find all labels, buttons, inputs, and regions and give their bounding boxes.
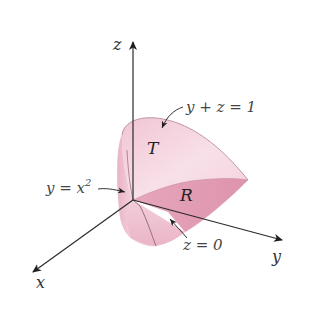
cylinder-equation-base: y = x (45, 179, 86, 197)
plane-equation-label: y + z = 1 (185, 98, 256, 116)
x-axis (33, 200, 133, 272)
cylinder-equation-label: y = x2 (45, 177, 91, 197)
y-axis-label: y (271, 247, 282, 266)
cylinder-equation-exponent: 2 (84, 177, 91, 188)
solid-region-diagram: z y x T R y + z = 1 y = x2 z = 0 (0, 0, 309, 309)
x-axis-label: x (36, 273, 45, 292)
base-plane-equation-label: z = 0 (182, 236, 223, 254)
region-T-label: T (147, 138, 160, 158)
region-R-label: R (179, 185, 193, 205)
z-axis-label: z (112, 35, 122, 54)
